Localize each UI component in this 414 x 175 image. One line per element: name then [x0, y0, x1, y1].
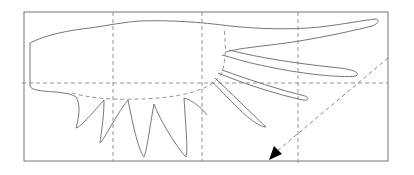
wing-diagram — [0, 0, 414, 175]
background — [0, 0, 414, 175]
